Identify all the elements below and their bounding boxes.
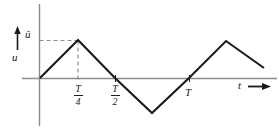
tick-label-T-over-4: T 4 bbox=[69, 84, 87, 107]
u-axis-label: u bbox=[12, 52, 18, 63]
t-axis-label: t bbox=[238, 80, 241, 91]
tick-label-T-over-2: T 2 bbox=[106, 84, 124, 107]
u-axis-arrow-icon bbox=[14, 26, 20, 50]
tick-label-T-over-4-numerator: T bbox=[69, 84, 87, 95]
tick-label-T-over-2-denominator: 2 bbox=[106, 97, 124, 108]
tick-label-T-over-4-denominator: 4 bbox=[69, 97, 87, 108]
tick-label-T-over-2-numerator: T bbox=[106, 84, 124, 95]
peak-amplitude-label: û bbox=[25, 29, 31, 40]
waveform-figure: u û t T T 4 T 2 bbox=[0, 0, 279, 129]
waveform-plot bbox=[0, 0, 279, 129]
tick-label-T: T bbox=[185, 87, 191, 98]
t-axis-arrow-icon bbox=[248, 83, 271, 90]
